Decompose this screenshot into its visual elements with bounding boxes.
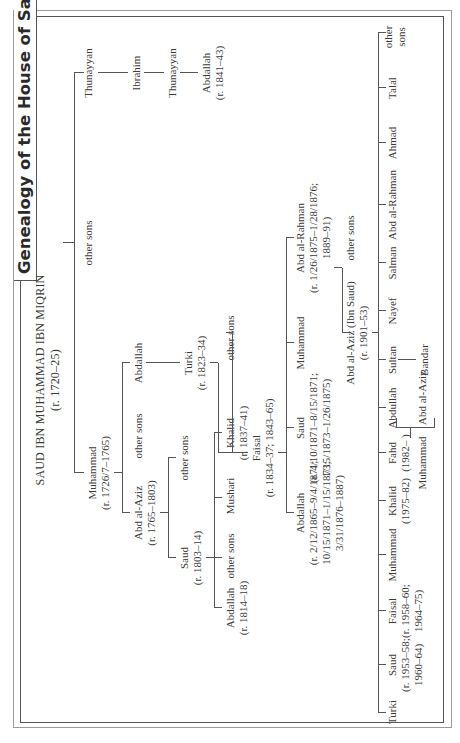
node-other-sons-g3: other sons xyxy=(178,423,191,493)
node-sultan-g7: Sultan xyxy=(386,335,399,385)
node-other-sons-g4: other sons xyxy=(224,521,237,591)
node-bandar-g8: Bandar xyxy=(418,335,431,385)
node-other-sons-g6: other sons xyxy=(344,203,357,273)
node-abd-al-aziz-ibn-saud: Abd al-Aziz (Ibn Saud) (r. 1901–53) xyxy=(344,278,370,388)
node-abd-al-aziz-g2: Abd al-Aziz (r. 1765–1803) xyxy=(132,468,158,558)
node-abdallah-thunayyan: Abdallah (r. 1841–43) xyxy=(200,28,226,118)
node-abdallah-g2: Abdallah xyxy=(132,328,145,398)
node-other-sons-g1: other sons xyxy=(82,203,95,283)
node-muhammad-g5: Muhammad xyxy=(294,303,307,383)
node-saud-g5: Saud (r. 4/10/1871–8/15/1871; 1/15/1873–… xyxy=(294,368,333,488)
node-thunayyan-g3: Thunayyan xyxy=(166,33,179,113)
node-other-sons-g7: other sons xyxy=(382,19,408,55)
node-ibrahim-g2: Ibrahim xyxy=(130,33,143,113)
node-turki-g3: Turki (r. 1823–34) xyxy=(182,328,208,398)
node-faisal-g4: Faisal (r. 1834–37; 1843–65) xyxy=(250,398,276,498)
node-turki-g7: Turki xyxy=(386,695,399,729)
node-talal-g7: Talal xyxy=(386,68,399,108)
root-name: SAUD IBN MUHAMMAD IBN MIQRIN xyxy=(33,215,48,545)
node-abd-al-rahman-g7: Abd al-Rahman xyxy=(386,165,399,245)
root-reign: (r. 1720–25) xyxy=(48,215,63,545)
node-mushari-g4: Mushari xyxy=(224,461,237,531)
node-thunayyan-g1: Thunayyan xyxy=(82,33,95,113)
root-node: SAUD IBN MUHAMMAD IBN MIQRIN (r. 1720–25… xyxy=(33,215,63,545)
genealogy-page: Genealogy of the House of Saud SAUD IBN … xyxy=(0,0,460,743)
node-other-sons-turki: other sons xyxy=(224,303,237,373)
node-other-sons-g2: other sons xyxy=(132,401,145,471)
node-muhammad-g1: Muhammad (r. 1726/7–1765) xyxy=(86,428,112,518)
node-saud-g3: Saud (r. 1803–14) xyxy=(178,518,204,598)
node-abd-al-rahman-g5: Abd al-Rahman (r. 1/26/1875–1/28/1876; 1… xyxy=(294,173,333,303)
node-ahmad-g7: Ahmad xyxy=(386,118,399,168)
node-abdullah-g7: Abdullah xyxy=(386,378,399,438)
node-khalid-g4: Khalid (r. 1837–41) xyxy=(224,395,250,471)
node-nayef-g7: Nayef xyxy=(386,286,399,336)
node-salman-g7: Salman xyxy=(386,238,399,288)
